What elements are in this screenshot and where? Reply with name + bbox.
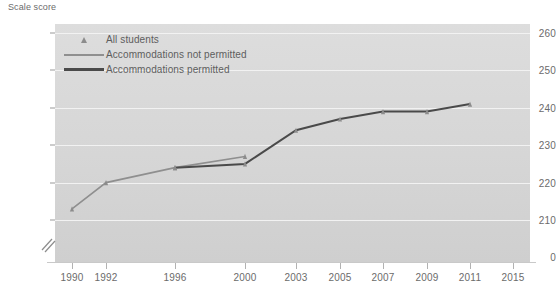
legend-line-swatch [64,68,104,71]
legend-line-swatch [64,54,104,56]
triangle-marker-icon [62,35,106,45]
legend-label: Accommodations permitted [106,64,230,75]
x-tick-label-2009: 2009 [415,272,438,283]
series-line-0 [72,156,245,208]
x-tick-label-2011: 2011 [459,272,481,283]
x-tick-mark-2005 [340,263,341,269]
x-tick-label-1992: 1992 [94,272,117,283]
legend-item-1: Accommodations not permitted [62,47,247,62]
x-tick-mark-1992 [106,263,107,269]
x-tick-label-2003: 2003 [284,272,307,283]
line-swatch-icon [62,54,106,56]
x-tick-mark-2015 [513,263,514,269]
axis-break-icon [39,236,57,256]
x-axis-line [47,262,536,263]
legend-label: All students [106,34,159,45]
x-tick-label-1990: 1990 [60,272,83,283]
x-tick-mark-2003 [296,263,297,269]
line-swatch-icon [62,68,106,71]
chart-legend: All studentsAccommodations not permitted… [62,32,247,77]
x-tick-label-2015: 2015 [501,272,524,283]
legend-item-0: All students [62,32,247,47]
legend-label: Accommodations not permitted [106,49,247,60]
x-tick-mark-1996 [175,263,176,269]
x-tick-mark-2007 [383,263,384,269]
x-tick-label-2000: 2000 [233,272,256,283]
legend-item-2: Accommodations permitted [62,62,247,77]
x-tick-mark-1990 [72,263,73,269]
scale-score-line-chart: Scale score 2102202302402502600 19901992… [0,0,556,293]
x-tick-label-2005: 2005 [328,272,351,283]
y-axis-title: Scale score [8,2,56,12]
x-tick-label-2007: 2007 [371,272,394,283]
x-tick-label-1996: 1996 [163,272,186,283]
x-tick-mark-2011 [470,263,471,269]
x-tick-mark-2000 [245,263,246,269]
x-tick-mark-2009 [427,263,428,269]
